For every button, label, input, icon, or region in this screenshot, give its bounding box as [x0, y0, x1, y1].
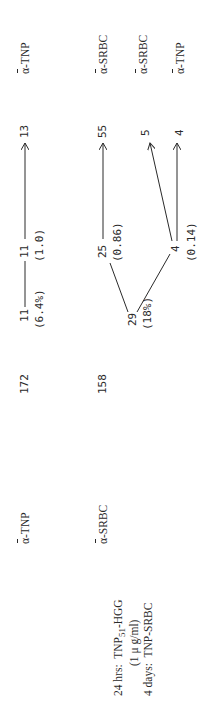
condition-time-label: 24 hrs: [112, 664, 124, 696]
specificity-label: -SRBC [97, 505, 109, 538]
row2-specificity: α-SRBC [97, 505, 109, 544]
condition-line-3: 4 days: TNP-SRBC [142, 603, 154, 696]
row2-branch1-note: (0.86) [112, 222, 124, 262]
condition-line-2: (1 μ g/ml) [128, 620, 140, 666]
row2-branch1-value: 25 [97, 245, 109, 258]
output-specificity-3: α-SRBC [137, 35, 149, 74]
alpha-bar-symbol: α [137, 68, 149, 74]
condition-agent-suffix: -HGG [112, 599, 124, 628]
row1-count: 172 [19, 374, 31, 394]
arrow-line [150, 143, 172, 241]
condition-line-1: 24 hrs: TNP51-HGG [112, 599, 128, 696]
output-specificity-2: α-SRBC [97, 35, 109, 74]
row1-node2-note: (1.0) [34, 229, 46, 262]
branch-line [110, 263, 128, 312]
condition-agent: TNP-SRBC [142, 603, 154, 658]
specificity-label: -TNP [19, 42, 31, 68]
output-specificity-4: α-TNP [174, 42, 186, 74]
output-specificity-1: α-TNP [19, 42, 31, 74]
condition-subscript: 51 [117, 628, 127, 637]
row1-node2-value: 11 [19, 245, 31, 258]
row2-node1-value: 29 [127, 313, 139, 326]
specificity-label: -TNP [19, 512, 31, 538]
condition-time-label: 4 days: [142, 663, 154, 696]
specificity-label: -SRBC [97, 35, 109, 68]
specificity-label: -SRBC [137, 35, 149, 68]
alpha-bar-symbol: α [97, 68, 109, 74]
alpha-bar-symbol: α [19, 538, 31, 544]
row1-node1-value: 11 [19, 309, 31, 322]
row2-output-5: 5 [140, 129, 152, 136]
row1-specificity: α-TNP [19, 512, 31, 544]
row2-count: 158 [97, 374, 109, 394]
alpha-bar-symbol: α [19, 68, 31, 74]
alpha-bar-symbol: α [174, 68, 186, 74]
row1-output-value: 13 [19, 125, 31, 138]
row2-node1-note: (18%) [142, 297, 154, 330]
row2-branch2-value: 4 [170, 245, 182, 252]
rotated-document-page: α-TNP α-SRBC 172 158 11 (6.4%) 11 (1.0) … [0, 0, 223, 724]
row2-output-4: 4 [174, 129, 186, 136]
row2-output-55: 55 [97, 125, 109, 138]
specificity-label: -TNP [174, 42, 186, 68]
alpha-bar-symbol: α [97, 538, 109, 544]
row2-branch2-note: (0.14) [186, 222, 198, 262]
condition-agent: TNP [112, 637, 124, 659]
row1-node1-note: (6.4%) [34, 289, 46, 329]
